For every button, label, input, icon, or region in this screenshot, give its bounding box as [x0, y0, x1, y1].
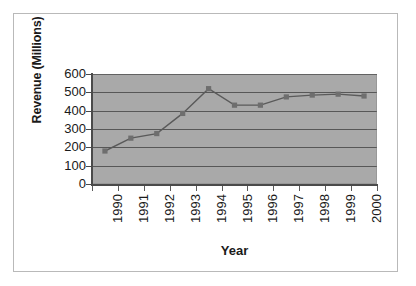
x-axis-tick-mark	[299, 186, 300, 191]
x-axis-tick-label: 1992	[163, 194, 177, 240]
data-point-marker	[102, 148, 107, 153]
y-axis-tick-mark	[86, 166, 92, 167]
x-axis-tick-label: 1996	[266, 194, 280, 240]
x-axis-tick-label: 1998	[318, 194, 332, 240]
x-axis-tick-mark	[351, 186, 352, 191]
x-axis-title: Year	[92, 243, 377, 258]
y-axis-tick-mark	[86, 184, 92, 185]
data-point-marker	[336, 92, 341, 97]
y-axis-tick-label: 200	[48, 140, 86, 154]
y-axis-tick-label: 300	[48, 122, 86, 136]
y-axis-tick-label: 500	[48, 85, 86, 99]
x-axis-tick-mark	[144, 186, 145, 191]
x-axis-tick-label: 1993	[189, 194, 203, 240]
data-point-marker	[154, 131, 159, 136]
revenue-markers	[102, 86, 366, 154]
x-axis-tick-label: 1999	[344, 194, 358, 240]
data-series-layer	[92, 74, 377, 184]
x-axis-tick-mark	[118, 186, 119, 191]
y-axis-tick-mark	[86, 129, 92, 130]
revenue-line-chart: Revenue (Millions) 0100200300400500600 Y…	[0, 0, 416, 286]
data-point-marker	[310, 92, 315, 97]
y-axis-tick-mark	[86, 111, 92, 112]
y-axis-tick-labels: 0100200300400500600	[48, 66, 86, 192]
data-point-marker	[232, 103, 237, 108]
x-axis-tick-label: 1994	[215, 194, 229, 240]
data-point-marker	[206, 86, 211, 91]
y-axis-tick-label: 0	[48, 177, 86, 191]
y-axis-tick-label: 100	[48, 159, 86, 173]
data-point-marker	[258, 103, 263, 108]
data-point-marker	[180, 111, 185, 116]
data-point-marker	[128, 136, 133, 141]
x-axis-tick-mark	[170, 186, 171, 191]
x-axis-line	[91, 184, 378, 186]
x-axis-tick-label: 1997	[292, 194, 306, 240]
x-axis-tick-label: 2000	[370, 194, 384, 240]
x-axis-tick-mark	[273, 186, 274, 191]
x-axis-tick-label: 1991	[137, 194, 151, 240]
y-axis-tick-mark	[86, 92, 92, 93]
x-axis-tick-mark	[196, 186, 197, 191]
y-axis-tick-label: 400	[48, 104, 86, 118]
x-axis-tick-mark	[247, 186, 248, 191]
x-axis-tick-label: 1990	[111, 194, 125, 240]
data-point-marker	[361, 93, 366, 98]
x-axis-tick-mark	[377, 186, 378, 191]
data-point-marker	[284, 94, 289, 99]
x-axis-tick-mark	[222, 186, 223, 191]
y-axis-tick-label: 600	[48, 67, 86, 81]
x-axis-tick-mark	[92, 186, 93, 191]
y-axis-tick-mark	[86, 147, 92, 148]
revenue-line	[105, 89, 364, 151]
y-axis-title: Revenue (Millions)	[30, 0, 50, 140]
x-axis-tick-label: 1995	[241, 194, 255, 240]
x-axis-tick-mark	[325, 186, 326, 191]
y-axis-tick-mark	[86, 74, 92, 75]
